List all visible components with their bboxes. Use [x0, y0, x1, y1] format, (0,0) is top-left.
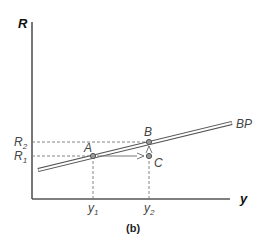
y-axis-label: R — [18, 16, 28, 31]
bp-curve-label: BP — [236, 117, 252, 131]
y1-label: y1 — [87, 201, 98, 217]
point-b-label: B — [144, 125, 152, 139]
bp-diagram: R y BP A B C R2 R1 y1 y2 (b) — [0, 0, 262, 242]
r1-label: R1 — [14, 149, 27, 165]
y2-label: y2 — [143, 201, 155, 217]
point-a-label: A — [83, 141, 92, 155]
bp-curve — [38, 123, 232, 170]
point-b — [146, 139, 151, 144]
x-axis-label: y — [239, 191, 248, 206]
point-c-label: C — [154, 156, 163, 170]
figure-caption: (b) — [126, 222, 140, 234]
point-c — [146, 153, 151, 158]
